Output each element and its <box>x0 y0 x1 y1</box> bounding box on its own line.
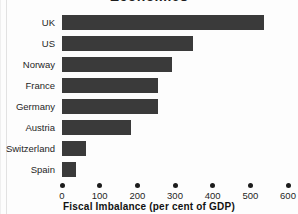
x-tick-dot-600 <box>286 183 291 188</box>
x-tick-label-0: 0 <box>42 190 82 201</box>
bar-switzerland <box>62 141 86 156</box>
chart-figure: Economies UKUSNorwayFranceGermanyAustria… <box>0 0 298 214</box>
x-tick-label-200: 200 <box>117 190 157 201</box>
bar-row: France <box>0 78 298 93</box>
bar-us <box>62 36 193 51</box>
bar-row: US <box>0 36 298 51</box>
x-tick-label-500: 500 <box>230 190 270 201</box>
category-label-austria: Austria <box>0 120 55 135</box>
plot-area: UKUSNorwayFranceGermanyAustriaSwitzerlan… <box>0 0 298 214</box>
bar-uk <box>62 15 264 30</box>
x-tick-label-400: 400 <box>193 190 233 201</box>
category-label-norway: Norway <box>0 57 55 72</box>
category-label-switzerland: Switzerland <box>0 141 55 156</box>
bar-row: Spain <box>0 162 298 177</box>
bar-france <box>62 78 158 93</box>
x-tick-label-100: 100 <box>80 190 120 201</box>
x-tick-dot-200 <box>135 183 140 188</box>
x-tick-dot-0 <box>60 183 65 188</box>
category-label-france: France <box>0 78 55 93</box>
bar-row: Norway <box>0 57 298 72</box>
category-label-uk: UK <box>0 15 55 30</box>
x-tick-dot-300 <box>173 183 178 188</box>
bar-row: UK <box>0 15 298 30</box>
bar-austria <box>62 120 131 135</box>
x-tick-dot-400 <box>210 183 215 188</box>
bar-spain <box>62 162 76 177</box>
category-label-spain: Spain <box>0 162 55 177</box>
category-label-us: US <box>0 36 55 51</box>
x-tick-label-300: 300 <box>155 190 195 201</box>
bar-germany <box>62 99 158 114</box>
bar-norway <box>62 57 172 72</box>
category-label-germany: Germany <box>0 99 55 114</box>
bar-row: Switzerland <box>0 141 298 156</box>
x-tick-label-600: 600 <box>268 190 298 201</box>
bar-row: Germany <box>0 99 298 114</box>
bar-row: Austria <box>0 120 298 135</box>
x-tick-dot-100 <box>97 183 102 188</box>
x-axis-title: Fiscal Imbalance (per cent of GDP) <box>0 201 298 212</box>
x-tick-dot-500 <box>248 183 253 188</box>
